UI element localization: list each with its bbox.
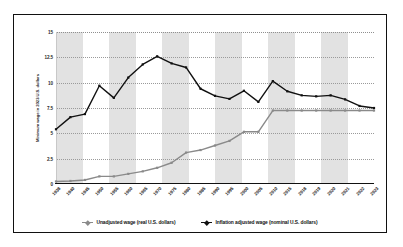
x-axis-tick-label: 2022 xyxy=(350,186,365,201)
data-point-marker xyxy=(315,109,317,111)
data-point-marker xyxy=(214,95,216,97)
data-point-marker xyxy=(127,173,129,175)
legend-label: Inflation adjusted wage (nominal U.S. do… xyxy=(215,220,317,225)
data-point-marker xyxy=(55,128,57,130)
x-axis-tick-label: 2010 xyxy=(263,186,278,201)
series-line xyxy=(56,56,374,129)
x-axis-tick-label: 1940 xyxy=(61,186,76,201)
data-point-marker xyxy=(301,94,303,96)
data-point-marker xyxy=(301,109,303,111)
data-point-marker xyxy=(113,175,115,177)
data-point-marker xyxy=(142,63,144,65)
legend-item[interactable]: Inflation adjusted wage (nominal U.S. do… xyxy=(201,220,317,225)
data-point-marker xyxy=(185,151,187,153)
data-point-marker xyxy=(214,144,216,146)
x-axis-tick-label: 1980 xyxy=(177,186,192,201)
legend-marker-icon xyxy=(201,220,212,225)
y-axis-tick-label: 15 xyxy=(40,30,53,35)
data-point-marker xyxy=(113,97,115,99)
x-axis-tick-label: 1970 xyxy=(148,186,163,201)
legend-marker-icon xyxy=(82,220,93,225)
x-axis-tick-label: 1985 xyxy=(191,186,206,201)
data-point-marker xyxy=(84,179,86,181)
data-point-marker xyxy=(69,116,71,118)
y-axis-tick-label: 10 xyxy=(40,80,53,85)
x-axis-tick-label: 1965 xyxy=(133,186,148,201)
data-point-marker xyxy=(358,109,360,111)
y-axis-tick-label: 5 xyxy=(40,131,53,136)
x-axis-tick-label: 2005 xyxy=(249,186,264,201)
x-axis-tick-label: 2015 xyxy=(278,186,293,201)
data-point-marker xyxy=(98,175,100,177)
y-axis-tick-label: 2.5 xyxy=(40,156,53,161)
data-point-marker xyxy=(286,90,288,92)
data-point-marker xyxy=(257,131,259,133)
data-point-marker xyxy=(373,107,375,109)
data-point-marker xyxy=(228,140,230,142)
data-point-marker xyxy=(69,180,71,182)
legend-item[interactable]: Unadjusted wage (real U.S. dollars) xyxy=(82,220,175,225)
data-point-marker xyxy=(330,109,332,111)
data-point-marker xyxy=(171,162,173,164)
data-point-marker xyxy=(84,113,86,115)
series-lines xyxy=(56,32,374,184)
data-point-marker xyxy=(199,88,201,90)
data-point-marker xyxy=(199,149,201,151)
data-point-marker xyxy=(171,62,173,64)
x-axis-tick-label: 1938 xyxy=(47,186,62,201)
data-point-marker xyxy=(156,55,158,57)
x-axis-tick-label: 2000 xyxy=(235,186,250,201)
data-point-marker xyxy=(344,109,346,111)
x-axis-tick-label: 2019 xyxy=(307,186,322,201)
y-axis-tick-label: 12.5 xyxy=(40,55,53,60)
data-point-marker xyxy=(344,98,346,100)
y-axis-tick-label: 7.5 xyxy=(40,106,53,111)
x-axis-tick-label: 1995 xyxy=(220,186,235,201)
x-axis-tick-label: 1950 xyxy=(90,186,105,201)
data-point-marker xyxy=(185,66,187,68)
x-axis-line xyxy=(55,183,374,184)
x-axis-tick-label: 2023 xyxy=(365,186,380,201)
data-point-marker xyxy=(243,131,245,133)
data-point-marker xyxy=(330,94,332,96)
data-point-marker xyxy=(272,80,274,82)
x-axis-tick-label: 1960 xyxy=(119,186,134,201)
x-axis-tick-label: 2018 xyxy=(292,186,307,201)
x-axis-tick-label: 1955 xyxy=(104,186,119,201)
chart-legend: Unadjusted wage (real U.S. dollars)Infla… xyxy=(14,220,386,225)
data-point-marker xyxy=(373,109,375,111)
data-point-marker xyxy=(127,77,129,79)
x-axis-tick-label: 2021 xyxy=(336,186,351,201)
x-axis-tick-label: 2020 xyxy=(321,186,336,201)
data-point-marker xyxy=(315,95,317,97)
data-point-marker xyxy=(98,85,100,87)
data-point-marker xyxy=(142,170,144,172)
legend-label: Unadjusted wage (real U.S. dollars) xyxy=(96,220,175,225)
data-point-marker xyxy=(272,109,274,111)
data-point-marker xyxy=(286,109,288,111)
data-point-marker xyxy=(243,90,245,92)
plot-area xyxy=(56,32,374,184)
data-point-marker xyxy=(156,167,158,169)
x-axis-tick-label: 1990 xyxy=(206,186,221,201)
x-axis-tick-label: 1945 xyxy=(76,186,91,201)
x-axis-tick-labels: 1938194019451950195519601965197019751980… xyxy=(56,186,374,216)
data-point-marker xyxy=(228,98,230,100)
data-point-marker xyxy=(257,101,259,103)
x-axis-tick-label: 1975 xyxy=(162,186,177,201)
chart-frame: Minimum wage in 2023 U.S. dollars 02.557… xyxy=(13,14,387,233)
y-axis-tick-label: 0 xyxy=(40,182,53,187)
data-point-marker xyxy=(358,105,360,107)
y-axis-tick-labels: 02.557.51012.515 xyxy=(40,32,53,184)
